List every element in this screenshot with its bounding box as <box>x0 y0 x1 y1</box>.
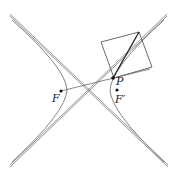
square-diagonal <box>113 32 139 78</box>
label-f: F <box>52 93 60 104</box>
point-p <box>111 76 115 80</box>
line-f-to-p <box>61 69 150 91</box>
label-f-prime: F′ <box>115 94 125 105</box>
hyperbola-diagram: F F′ P <box>0 0 181 176</box>
label-p: P <box>116 76 123 87</box>
hyperbola-left-branch <box>12 20 67 162</box>
point-f-prime <box>115 88 118 91</box>
diagram-svg <box>0 0 181 176</box>
